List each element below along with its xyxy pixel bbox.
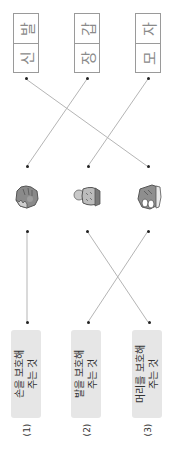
description-box-1[interactable]: 손을 보호해주는 것 <box>11 330 41 418</box>
word-box-cell: 신 <box>14 43 38 72</box>
description-box-2[interactable]: 발을 보호해주는 것 <box>71 330 101 418</box>
item-number-2: (2) <box>77 425 97 435</box>
word-box-cell: 장 <box>75 43 99 72</box>
connector-dot[interactable] <box>25 77 28 80</box>
connector-dot[interactable] <box>87 321 90 324</box>
word-box-cell: 모 <box>136 43 160 72</box>
connector-dot[interactable] <box>86 230 89 233</box>
character: 발 <box>16 22 37 36</box>
connector-dot[interactable] <box>148 321 151 324</box>
connector-dot[interactable] <box>86 77 89 80</box>
shoe-icon <box>132 181 164 213</box>
connector-dot[interactable] <box>147 77 150 80</box>
connector-dot[interactable] <box>26 230 29 233</box>
character: 모 <box>138 51 159 65</box>
character: 자 <box>138 22 159 36</box>
description-text: 손을 보호해주는 것 <box>13 350 39 398</box>
word-box-gloves[interactable]: 갑 장 <box>74 13 100 73</box>
description-text: 발을 보호해주는 것 <box>73 350 99 398</box>
hat-icon <box>71 181 103 213</box>
item-number-3: (3) <box>138 425 158 435</box>
character: 갑 <box>77 22 98 36</box>
glove-icon <box>11 181 43 213</box>
connector-dot[interactable] <box>26 321 29 324</box>
connector-dot[interactable] <box>87 165 90 168</box>
word-box-cell: 갑 <box>75 14 99 44</box>
word-box-cell: 발 <box>14 14 38 44</box>
word-box-hat[interactable]: 자 모 <box>135 13 161 73</box>
character: 장 <box>77 51 98 65</box>
item-number-1: (1) <box>17 425 37 435</box>
connector-dot[interactable] <box>147 230 150 233</box>
word-box-shoes[interactable]: 발 신 <box>13 13 39 73</box>
description-text: 머리를 보호해주는 것 <box>134 345 160 402</box>
connector-dot[interactable] <box>26 165 29 168</box>
description-box-3[interactable]: 머리를 보호해주는 것 <box>132 330 162 418</box>
connector-dot[interactable] <box>147 165 150 168</box>
word-box-cell: 자 <box>136 14 160 44</box>
character: 신 <box>16 51 37 65</box>
